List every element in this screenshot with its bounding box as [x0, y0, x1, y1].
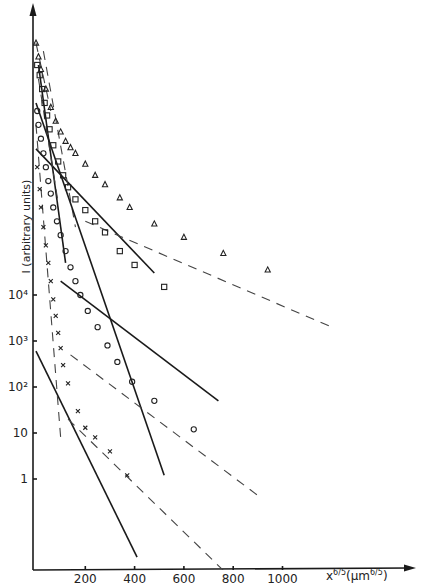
x-axis-label: x6/5(µm6/5) — [326, 568, 388, 583]
cross-marker-icon — [49, 279, 53, 283]
triangle-marker-icon — [63, 138, 68, 143]
circle-marker-icon — [36, 122, 41, 127]
y-axis-arrow-icon — [30, 3, 37, 16]
square-marker-icon — [117, 249, 122, 254]
circle-marker-icon — [95, 325, 100, 330]
triangle-marker-icon — [152, 221, 157, 226]
circle-marker-icon — [68, 265, 73, 270]
circle-marker-icon — [85, 308, 90, 313]
triangles-fit-dashed — [85, 221, 331, 327]
x-tick-label: 1000 — [267, 572, 298, 586]
circle-marker-icon — [54, 219, 59, 224]
circle-marker-icon — [191, 427, 196, 432]
triangle-marker-icon — [181, 234, 186, 239]
y-axis-label: I (arbitrary units) — [20, 167, 33, 287]
x-tick-label: 400 — [123, 572, 146, 586]
triangle-marker-icon — [73, 150, 78, 155]
crosses-fit-solid — [36, 351, 137, 557]
squares-fit-solid — [61, 281, 219, 401]
fit-lines — [36, 43, 332, 585]
cross-marker-icon — [35, 165, 39, 169]
triangle-marker-icon — [68, 145, 73, 150]
x-axis-label-close: ) — [383, 569, 388, 583]
circle-marker-icon — [105, 343, 110, 348]
square-marker-icon — [132, 262, 137, 267]
circle-marker-icon — [43, 165, 48, 170]
circle-marker-icon — [41, 151, 46, 156]
x-axis-label-exp: 6/5 — [333, 568, 346, 577]
square-marker-icon — [162, 284, 167, 289]
square-marker-icon — [83, 208, 88, 213]
cross-marker-icon — [56, 331, 60, 335]
circle-marker-icon — [115, 359, 120, 364]
cross-marker-icon — [54, 314, 58, 318]
triangle-marker-icon — [265, 267, 270, 272]
cross-marker-icon — [59, 346, 63, 350]
triangle-marker-icon — [83, 161, 88, 166]
triangle-marker-icon — [127, 204, 132, 209]
cross-marker-icon — [41, 225, 45, 229]
cross-marker-icon — [93, 435, 97, 439]
circles-fit-dashed — [71, 355, 261, 497]
cross-marker-icon — [61, 363, 65, 367]
cross-marker-icon — [46, 261, 50, 265]
circle-marker-icon — [48, 191, 53, 196]
triangle-marker-icon — [36, 54, 41, 59]
circle-marker-icon — [38, 136, 43, 141]
circle-marker-icon — [51, 205, 56, 210]
y-tick-label: 10⁴ — [8, 288, 28, 302]
y-tick-label: 10² — [8, 380, 28, 394]
cross-marker-icon — [83, 426, 87, 430]
data-markers — [33, 40, 270, 477]
x-tick-label: 600 — [172, 572, 195, 586]
x-tick-label: 800 — [222, 572, 245, 586]
triangle-marker-icon — [221, 250, 226, 255]
y-tick-label: 10 — [13, 426, 28, 440]
cross-marker-icon — [51, 297, 55, 301]
triangles-fit-solid — [36, 149, 154, 273]
square-marker-icon — [93, 219, 98, 224]
square-marker-icon — [73, 197, 78, 202]
cross-marker-icon — [66, 381, 70, 385]
circle-marker-icon — [73, 279, 78, 284]
x-tick-label: 200 — [74, 572, 97, 586]
cross-marker-icon — [108, 449, 112, 453]
cross-marker-icon — [76, 409, 80, 413]
y-tick-label: 10³ — [8, 334, 28, 348]
chart-canvas: 2004006008001000 11010²10³10⁴ — [0, 0, 421, 586]
triangle-marker-icon — [102, 182, 107, 187]
circle-marker-icon — [152, 398, 157, 403]
x-axis-label-unit: (µm — [346, 569, 370, 583]
triangle-marker-icon — [58, 129, 63, 134]
x-axis-label-unit-exp: 6/5 — [370, 568, 383, 577]
triangle-marker-icon — [93, 172, 98, 177]
triangle-marker-icon — [117, 195, 122, 200]
axes: 2004006008001000 11010²10³10⁴ — [8, 3, 416, 586]
x-axis-arrow-icon — [404, 565, 416, 572]
y-tick-label: 1 — [20, 472, 28, 486]
circle-marker-icon — [46, 178, 51, 183]
